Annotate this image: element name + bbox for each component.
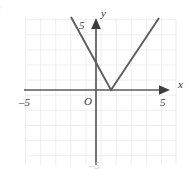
origin-label: O [84,95,92,107]
y-axis-tick-label-5: 5 [79,19,85,31]
coordinate-graph-figure: ) [0,0,188,169]
x-axis-tick-label-negative-5: –5 [18,96,31,108]
y-axis-name-label: y [100,7,106,19]
graph-canvas: 5 y x 5 –5 O –5 [0,0,188,169]
x-axis-name-label: x [177,78,183,90]
x-axis [24,85,170,95]
x-axis-tick-label-5: 5 [160,96,166,108]
y-axis-tick-label-negative-5: –5 [88,159,101,169]
x-axis-arrow-icon [159,85,170,95]
y-axis [91,18,101,165]
grid-lines [26,18,177,165]
